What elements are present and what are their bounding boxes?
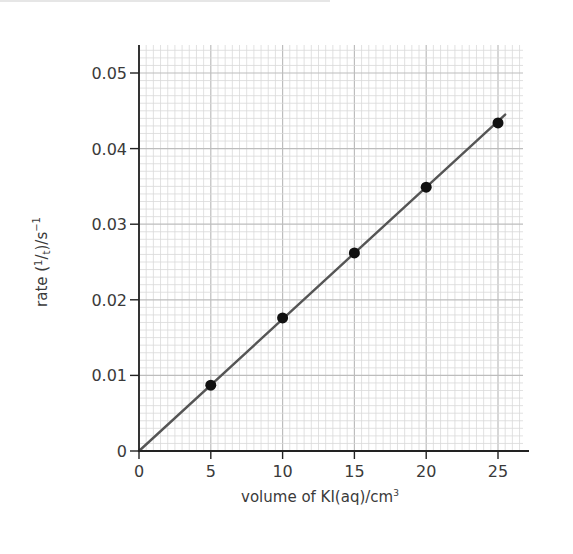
y-tick-label: 0: [117, 442, 127, 461]
x-tick-label: 15: [344, 462, 364, 481]
y-axis-label: rate (1/t)/s−1: [31, 217, 52, 307]
x-tick-label: 0: [134, 462, 144, 481]
y-tick-label: 0.04: [91, 140, 127, 159]
data-point: [205, 380, 216, 391]
y-axis-ticks: 00.010.020.030.040.05: [91, 64, 139, 461]
x-tick-label: 10: [272, 462, 292, 481]
x-axis-label: volume of KI(aq)/cm3: [241, 488, 399, 506]
x-axis-ticks: 0510152025: [134, 451, 508, 481]
y-tick-label: 0.05: [91, 64, 127, 83]
x-tick-label: 5: [206, 462, 216, 481]
graph-paper-grid: [139, 45, 523, 451]
data-point: [349, 247, 360, 258]
y-tick-label: 0.02: [91, 291, 127, 310]
x-tick-label: 20: [416, 462, 436, 481]
data-point: [421, 182, 432, 193]
y-tick-label: 0.01: [91, 366, 127, 385]
best-fit-line: [139, 115, 505, 451]
y-tick-label: 0.03: [91, 215, 127, 234]
fit-line: [139, 115, 505, 451]
x-tick-label: 25: [488, 462, 508, 481]
data-point: [277, 312, 288, 323]
rate-vs-volume-chart: 0510152025 00.010.020.030.040.05 rate (1…: [0, 0, 573, 554]
data-point: [493, 117, 504, 128]
